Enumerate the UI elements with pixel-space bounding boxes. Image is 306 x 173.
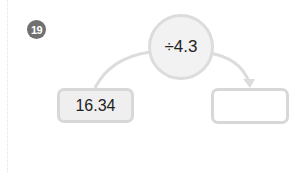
input-value: 16.34	[75, 97, 115, 115]
arrowhead-icon	[243, 79, 255, 88]
input-value-box: 16.34	[57, 88, 134, 123]
operation-circle: ÷4.3	[148, 14, 214, 80]
left-connector-arc	[95, 52, 150, 88]
connector-arrows	[0, 0, 306, 173]
answer-box[interactable]	[211, 88, 289, 124]
operation-label: ÷4.3	[165, 37, 198, 57]
right-connector-arc	[209, 53, 249, 82]
